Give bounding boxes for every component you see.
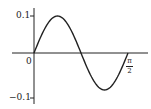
y-tick-label-top: 0.1 bbox=[16, 11, 30, 20]
fraction-denominator: 2 bbox=[127, 67, 131, 75]
origin-label: 0 bbox=[26, 57, 32, 66]
x-tick-label-pi-over-2: π 2 bbox=[126, 58, 133, 75]
y-tick-label-bottom: −0.1 bbox=[9, 93, 31, 102]
fraction-numerator: π bbox=[127, 57, 132, 65]
